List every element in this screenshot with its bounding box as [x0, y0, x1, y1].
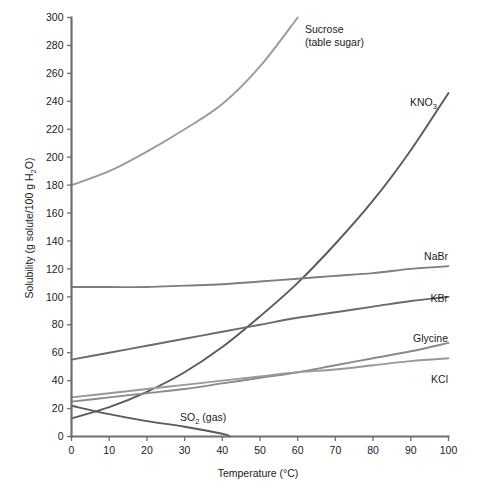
y-tick-label: 0	[58, 430, 64, 442]
y-tick-label: 280	[46, 39, 64, 51]
series-label-sucrose-table-sugar: (table sugar)	[305, 36, 364, 48]
x-tick-label: 100	[440, 444, 458, 456]
y-tick-label: 140	[46, 235, 64, 247]
tick-labels-layer: 0204060801001201401601802002202402602803…	[46, 11, 457, 455]
x-tick-label: 60	[292, 444, 304, 456]
x-tick-label: 0	[69, 444, 75, 456]
y-tick-label: 200	[46, 151, 64, 163]
y-tick-label: 160	[46, 207, 64, 219]
series-line-kno3	[72, 93, 449, 418]
y-tick-label: 80	[52, 318, 64, 330]
series-label-kcl: KCl	[431, 373, 448, 385]
x-tick-label: 70	[330, 444, 342, 456]
series-label-nabr: NaBr	[424, 250, 448, 262]
series-label-glycine: Glycine	[413, 332, 448, 344]
y-tick-label: 220	[46, 123, 64, 135]
y-tick-label: 40	[52, 374, 64, 386]
x-tick-label: 40	[216, 444, 228, 456]
series-label-so2-gas: SO2 (gas)	[180, 411, 226, 426]
series-line-nabr	[72, 266, 449, 287]
x-axis-title: Temperature (°C)	[218, 467, 299, 479]
series-layer	[72, 18, 449, 437]
y-tick-label: 60	[52, 346, 64, 358]
x-tick-label: 10	[103, 444, 115, 456]
x-tick-label: 20	[141, 444, 153, 456]
x-tick-label: 80	[367, 444, 379, 456]
series-label-sucrose-table-sugar: Sucrose	[305, 23, 344, 35]
x-tick-label: 50	[254, 444, 266, 456]
y-tick-label: 240	[46, 95, 64, 107]
y-tick-label: 100	[46, 291, 64, 303]
series-line-glycine	[72, 343, 449, 402]
axes-layer	[72, 18, 449, 437]
x-tick-label: 30	[179, 444, 191, 456]
y-axis-title: Solubility (g solute/100 g H2O)	[23, 158, 38, 299]
y-tick-label: 180	[46, 179, 64, 191]
solubility-chart: 0204060801001201401601802002202402602803…	[0, 0, 480, 497]
chart-plot-area: 0204060801001201401601802002202402602803…	[0, 0, 480, 497]
y-tick-label: 120	[46, 263, 64, 275]
y-tick-label: 260	[46, 67, 64, 79]
series-line-kbr	[72, 297, 449, 360]
series-label-kbr: KBr	[430, 292, 448, 304]
series-label-kno3: KNO3	[410, 96, 437, 111]
y-tick-label: 20	[52, 402, 64, 414]
x-tick-label: 90	[405, 444, 417, 456]
series-line-sucrose-table-sugar	[72, 18, 298, 186]
series-labels-layer: Sucrose(table sugar)KNO3NaBrKBrGlycineKC…	[180, 23, 448, 426]
y-tick-label: 300	[46, 11, 64, 23]
